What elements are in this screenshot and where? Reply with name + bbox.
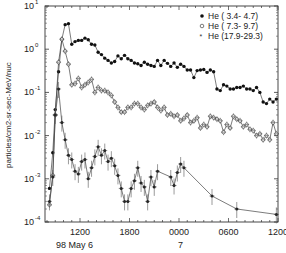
y-tick-label: 10-1 bbox=[24, 85, 41, 97]
legend-label: He ( 3.4- 4.7) bbox=[208, 11, 258, 21]
legend-item-he-17.9-29.3: * He (17.9-29.3) bbox=[200, 31, 263, 41]
legend-label: He ( 7.3- 9.7) bbox=[208, 21, 258, 31]
filled-circle-marker-icon bbox=[200, 14, 204, 18]
x-tick-label: 0000 bbox=[169, 227, 189, 237]
x-tick-label: 1800 bbox=[119, 227, 139, 237]
y-tick-label: 100 bbox=[24, 42, 39, 54]
legend-item-he-3.4-4.7: He ( 3.4- 4.7) bbox=[200, 11, 258, 21]
particle-flux-chart: 10110010-110-210-310-4 12001800000006001… bbox=[0, 0, 286, 253]
y-tick-label: 10-3 bbox=[24, 172, 41, 184]
x-tick-label: 0600 bbox=[218, 227, 238, 237]
x-tick-label: 1200 bbox=[268, 227, 286, 237]
series-2 bbox=[47, 82, 279, 223]
x-tick-label: 1200 bbox=[70, 227, 90, 237]
y-tick-label: 10-2 bbox=[24, 129, 41, 141]
legend-item-he-7.3-9.7: He ( 7.3- 9.7) bbox=[200, 21, 258, 31]
y-axis-label: particles/cm2-sr-sec-MeV/nuc bbox=[4, 62, 13, 168]
y-tick-label: 10-4 bbox=[24, 215, 41, 227]
y-tick-label: 101 bbox=[24, 0, 39, 11]
legend-label: He (17.9-29.3) bbox=[208, 31, 263, 41]
data-series bbox=[47, 22, 279, 223]
x-sublabel-day6: 98 May 6 bbox=[56, 240, 93, 250]
star-marker-icon: * bbox=[200, 33, 203, 40]
open-circle-marker-icon bbox=[200, 24, 204, 28]
x-sublabel-day7: 7 bbox=[178, 240, 183, 250]
legend: He ( 3.4- 4.7) He ( 7.3- 9.7) * He (17.9… bbox=[200, 11, 263, 41]
